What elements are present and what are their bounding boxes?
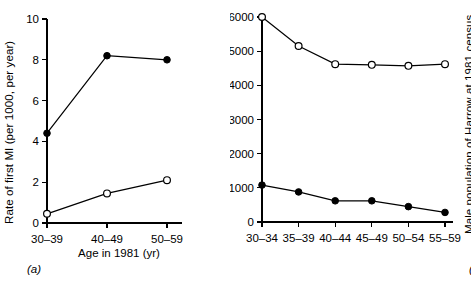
- data-point-open-circle: [405, 62, 412, 69]
- y-tick-label: 0: [33, 217, 39, 229]
- data-point-open-circle: [295, 43, 302, 50]
- y-tick-label: 0: [248, 216, 254, 228]
- figure-container: Rate of first MI (per 1000, per year) Ag…: [0, 0, 471, 284]
- y-tick-label: 10: [26, 13, 39, 25]
- y-tick-label: 2000: [230, 148, 254, 160]
- x-tick-label: 35–39: [283, 232, 315, 244]
- panel-a-plot: 024681030–3940–4950–59: [0, 0, 236, 284]
- data-point-open-circle: [44, 210, 51, 217]
- series-line-open-circle-series: [262, 17, 445, 66]
- y-tick-label: 3000: [230, 114, 254, 126]
- data-point-filled-circle: [442, 209, 449, 216]
- panel-b-plot: 010002000300040005000600030–3435–3940–44…: [230, 0, 471, 284]
- panel-a: Rate of first MI (per 1000, per year) Ag…: [0, 0, 236, 284]
- y-tick-label: 2: [33, 176, 39, 188]
- data-point-open-circle: [104, 190, 111, 197]
- data-point-filled-circle: [295, 189, 302, 196]
- data-point-filled-circle: [259, 182, 266, 189]
- x-tick-label: 40–49: [91, 233, 123, 245]
- y-tick-label: 6000: [230, 11, 254, 23]
- data-point-open-circle: [332, 61, 339, 68]
- data-point-filled-circle: [332, 198, 339, 205]
- data-point-open-circle: [164, 177, 171, 184]
- data-point-filled-circle: [369, 198, 376, 205]
- x-tick-label: 50–59: [151, 233, 183, 245]
- data-point-filled-circle: [164, 57, 171, 64]
- data-point-open-circle: [259, 14, 266, 21]
- y-tick-label: 5000: [230, 45, 254, 57]
- series-line-filled-circle-series: [47, 56, 167, 134]
- data-point-filled-circle: [44, 130, 51, 137]
- x-tick-label: 50–54: [392, 232, 425, 244]
- x-tick-label: 45–49: [356, 232, 388, 244]
- x-tick-label: 40–44: [319, 232, 352, 244]
- y-tick-label: 4: [33, 135, 40, 147]
- series-line-filled-circle-series: [262, 185, 445, 212]
- y-tick-label: 6: [33, 95, 39, 107]
- x-tick-label: 30–34: [246, 232, 279, 244]
- data-point-open-circle: [442, 61, 449, 68]
- data-point-open-circle: [368, 61, 375, 68]
- data-point-filled-circle: [104, 52, 111, 59]
- y-tick-label: 1000: [230, 182, 254, 194]
- y-tick-label: 8: [33, 54, 39, 66]
- x-tick-label: 30–39: [31, 233, 63, 245]
- x-tick-label: 55–59: [429, 232, 461, 244]
- y-tick-label: 4000: [230, 79, 254, 91]
- panel-b: Male population of Harrow at 1981 census…: [230, 0, 471, 284]
- data-point-filled-circle: [405, 203, 412, 210]
